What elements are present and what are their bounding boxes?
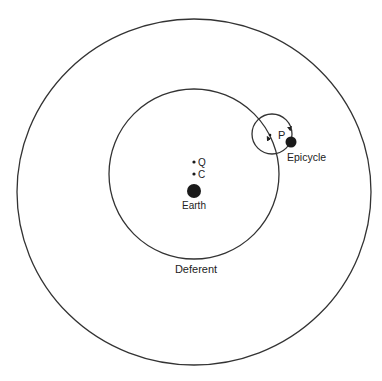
epicycle-label: Epicycle xyxy=(287,151,326,163)
epicycle-center-label: P xyxy=(278,129,285,141)
planet-icon xyxy=(286,137,297,148)
equant-label: Q xyxy=(198,157,206,168)
epicycle-diagram: P Epicycle Q C Earth Deferent xyxy=(0,0,382,381)
earth-icon xyxy=(187,184,201,198)
epicycle-center-point xyxy=(269,134,272,137)
equant-point xyxy=(192,160,195,163)
center-label: C xyxy=(198,169,205,180)
earth-label: Earth xyxy=(182,200,206,211)
deferent-label: Deferent xyxy=(175,263,217,275)
center-point xyxy=(192,172,195,175)
epicycle-circle xyxy=(252,114,292,154)
